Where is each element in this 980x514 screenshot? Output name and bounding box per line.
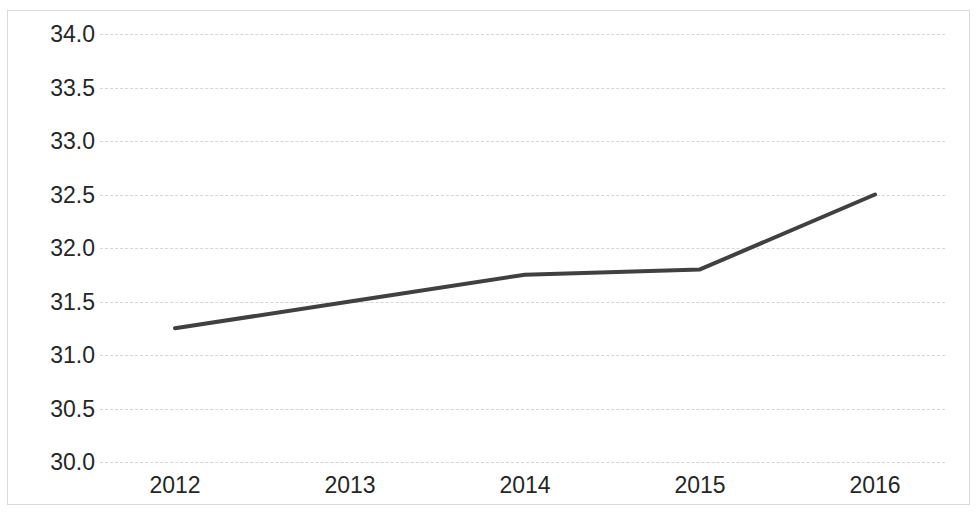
x-tick-label: 2016 bbox=[849, 474, 900, 497]
x-tick-label: 2012 bbox=[149, 474, 200, 497]
x-tick-label: 2014 bbox=[499, 474, 550, 497]
line-chart: 34.0 33.5 33.0 32.5 32.0 31.5 31.0 30.5 … bbox=[0, 0, 980, 514]
series-polyline bbox=[175, 195, 875, 329]
x-axis: 2012 2013 2014 2015 2016 bbox=[0, 474, 980, 508]
x-tick-label: 2015 bbox=[674, 474, 725, 497]
x-tick-label: 2013 bbox=[324, 474, 375, 497]
data-series-line bbox=[0, 0, 980, 514]
